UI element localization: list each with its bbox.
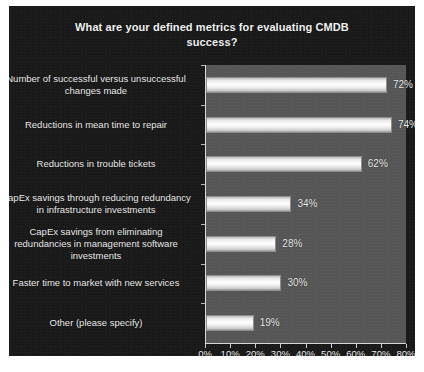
bar-value-3: 34%	[297, 199, 317, 209]
x-axis-label-1: 10%	[221, 348, 240, 356]
x-axis-label-5: 50%	[321, 348, 340, 356]
y-tick-1	[201, 105, 205, 106]
x-axis-label-2: 20%	[246, 348, 265, 356]
y-tick-3	[201, 184, 205, 185]
category-label-0: Number of successful versus unsuccessful…	[9, 73, 191, 97]
category-label-5: Faster time to market with new services	[9, 277, 191, 289]
category-label-6: Other (please specify)	[9, 317, 191, 329]
y-tick-0	[201, 65, 205, 66]
x-axis-label-6: 60%	[346, 348, 365, 356]
category-label-3: CapEx savings through reducing redundanc…	[9, 192, 191, 216]
bar-value-2: 62%	[368, 159, 388, 169]
category-label-2: Reductions in trouble tickets	[9, 158, 191, 170]
x-axis-label-8: 80%	[396, 348, 415, 356]
chart-frame: What are your defined metrics for evalua…	[0, 0, 424, 372]
bar-4	[206, 236, 276, 252]
x-axis-label-7: 70%	[371, 348, 390, 356]
bar-1	[206, 117, 392, 133]
bar-value-4: 28%	[282, 239, 302, 249]
y-tick-2	[201, 144, 205, 145]
x-axis-label-0: 0%	[198, 348, 212, 356]
bar-0	[206, 77, 387, 93]
bar-value-6: 19%	[260, 318, 280, 328]
category-label-4: CapEx savings from eliminating redundanc…	[9, 226, 191, 262]
y-tick-6	[201, 303, 205, 304]
chart-title-line-2: success?	[33, 35, 391, 50]
bar-value-1: 74%	[398, 120, 415, 130]
chart-title-line-1: What are your defined metrics for evalua…	[33, 20, 391, 35]
bar-5	[206, 275, 281, 291]
y-tick-4	[201, 224, 205, 225]
y-tick-5	[201, 264, 205, 265]
x-axis-label-4: 40%	[296, 348, 315, 356]
x-axis-label-3: 30%	[271, 348, 290, 356]
bar-value-0: 72%	[393, 80, 413, 90]
bar-value-5: 30%	[287, 278, 307, 288]
chart-title: What are your defined metrics for evalua…	[33, 20, 391, 50]
category-label-1: Reductions in mean time to repair	[9, 119, 191, 131]
chart-panel: What are your defined metrics for evalua…	[9, 6, 415, 356]
bar-6	[206, 315, 254, 331]
bar-3	[206, 196, 291, 212]
bar-2	[206, 156, 362, 172]
